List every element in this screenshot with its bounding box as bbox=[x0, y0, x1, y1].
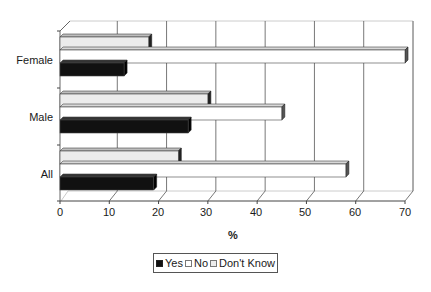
legend-swatch-no-icon bbox=[185, 260, 192, 267]
floor-gridline bbox=[306, 191, 314, 201]
bar-top-male-yes bbox=[60, 117, 191, 120]
bar-top-male-no bbox=[60, 104, 285, 107]
legend: Yes No Don't Know bbox=[153, 253, 278, 273]
category-label-male: Male bbox=[3, 111, 53, 123]
bar-top-all-no bbox=[60, 161, 349, 164]
floor-gridline bbox=[257, 191, 265, 201]
bar-top-female-no bbox=[60, 47, 408, 50]
legend-swatch-dont-know-icon bbox=[210, 260, 217, 267]
floor-gridline bbox=[208, 191, 216, 201]
legend-item-no: No bbox=[185, 257, 208, 269]
bar-side-male-yes bbox=[188, 117, 191, 133]
x-tick-10: 10 bbox=[94, 206, 124, 218]
x-tick-0: 0 bbox=[45, 206, 75, 218]
bar-top-female-yes bbox=[60, 60, 127, 63]
x-axis-title: % bbox=[226, 229, 240, 241]
legend-label-no: No bbox=[194, 257, 208, 269]
legend-item-dont-know: Don't Know bbox=[210, 257, 275, 269]
floor-gridline bbox=[356, 191, 364, 201]
floor-gridline bbox=[109, 191, 117, 201]
x-tick-50: 50 bbox=[290, 206, 320, 218]
legend-item-yes: Yes bbox=[156, 257, 183, 269]
bar-side-female-no bbox=[405, 47, 408, 63]
bar-top-male-don-t-know bbox=[60, 91, 211, 94]
bar-side-female-yes bbox=[124, 60, 127, 76]
x-tick-20: 20 bbox=[143, 206, 173, 218]
floor-gridline bbox=[159, 191, 167, 201]
floor-left-edge bbox=[61, 191, 68, 201]
legend-swatch-yes-icon bbox=[156, 260, 163, 267]
bar-top-female-don-t-know bbox=[60, 34, 152, 37]
category-label-all: All bbox=[3, 168, 53, 180]
bar-side-all-yes bbox=[154, 174, 157, 190]
legend-label-yes: Yes bbox=[165, 257, 183, 269]
bar-side-male-no bbox=[282, 104, 285, 120]
legend-label-dont-know: Don't Know bbox=[219, 257, 275, 269]
bar-male-yes bbox=[60, 120, 188, 133]
bar-female-yes bbox=[60, 63, 124, 76]
bar-top-all-don-t-know bbox=[60, 148, 181, 151]
x-tick-30: 30 bbox=[191, 206, 221, 218]
x-tick-40: 40 bbox=[241, 206, 271, 218]
bar-side-all-no bbox=[346, 161, 349, 177]
floor-gridline bbox=[405, 191, 413, 201]
bar-top-all-yes bbox=[60, 174, 157, 177]
x-tick-60: 60 bbox=[340, 206, 370, 218]
chart-plot-area bbox=[0, 0, 431, 292]
x-tick-70: 70 bbox=[390, 206, 420, 218]
category-label-female: Female bbox=[3, 54, 53, 66]
bar-all-yes bbox=[60, 177, 154, 190]
